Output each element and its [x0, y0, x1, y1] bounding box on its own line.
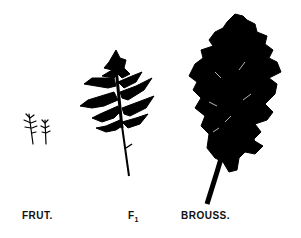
- brouss-leaf: [185, 12, 285, 208]
- label-frut: FRUT.: [22, 210, 53, 221]
- f1-leaf: [78, 48, 168, 180]
- label-brouss: BROUSS.: [181, 210, 230, 221]
- label-f1-base: F: [128, 210, 135, 221]
- frut-leaf-pair: [15, 108, 55, 148]
- label-f1: F1: [128, 210, 139, 223]
- label-f1-subscript: 1: [135, 216, 139, 223]
